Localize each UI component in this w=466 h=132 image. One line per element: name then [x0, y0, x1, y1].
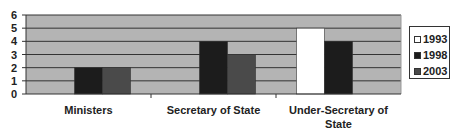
- legend-label: 1993: [423, 33, 447, 45]
- bar-1998: [75, 68, 103, 94]
- bar-1993: [297, 28, 325, 94]
- x-category-label: State: [325, 118, 352, 130]
- bar-1998: [325, 41, 353, 94]
- bar-2003: [103, 68, 131, 94]
- y-tick-label: 3: [11, 49, 17, 61]
- plot-area: [26, 15, 401, 94]
- legend-swatch-2003: [414, 68, 421, 75]
- x-category-label: Under-Secretary of: [289, 104, 388, 116]
- bar-chart: 0123456 MinistersSecretary of StateUnder…: [0, 0, 466, 132]
- y-tick-label: 2: [11, 62, 17, 74]
- legend-item-1998: 1998: [410, 47, 449, 63]
- x-category-label: Secretary of State: [167, 104, 261, 116]
- legend-label: 1998: [423, 49, 447, 61]
- bar-1998: [200, 41, 228, 94]
- y-tick-label: 1: [11, 75, 17, 87]
- bar-2003: [228, 55, 256, 95]
- y-tick-label: 5: [11, 22, 17, 34]
- legend-item-1993: 1993: [410, 31, 449, 47]
- legend: 1993 1998 2003: [409, 26, 450, 79]
- y-tick-label: 4: [11, 35, 18, 47]
- legend-label: 2003: [423, 65, 447, 77]
- legend-swatch-1993: [414, 36, 421, 43]
- y-tick-label: 6: [11, 9, 17, 21]
- x-category-label: Ministers: [64, 104, 112, 116]
- y-tick-label: 0: [11, 88, 17, 100]
- legend-swatch-1998: [414, 52, 421, 59]
- y-axis: 0123456: [11, 9, 26, 100]
- legend-item-2003: 2003: [410, 63, 449, 79]
- x-axis: MinistersSecretary of StateUnder-Secreta…: [26, 94, 401, 130]
